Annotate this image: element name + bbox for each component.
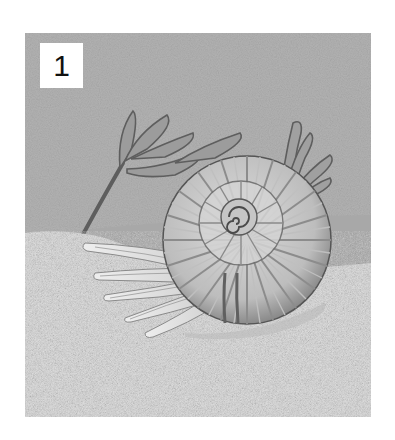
badge-number: 1 <box>53 51 70 81</box>
ammonite-scene <box>25 33 371 417</box>
number-badge: 1 <box>40 43 83 88</box>
illustration-frame: 1 <box>25 33 371 417</box>
